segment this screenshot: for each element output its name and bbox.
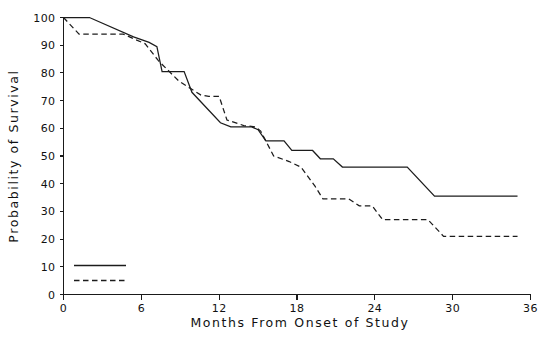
x-tick-label: 6	[138, 302, 145, 315]
y-tick-label: 60	[41, 122, 56, 135]
y-axis-title: Probability of Survival	[6, 69, 21, 242]
y-tick-label: 0	[48, 289, 55, 302]
survival-curve-series-2	[64, 18, 518, 237]
y-tick-label: 40	[41, 178, 56, 191]
y-tick-label: 80	[41, 67, 56, 80]
x-tick-label: 36	[523, 302, 538, 315]
y-tick-label: 90	[41, 39, 56, 52]
y-tick-label: 50	[41, 150, 56, 163]
x-tick-label: 12	[212, 302, 227, 315]
x-tick-label: 0	[60, 302, 67, 315]
x-axis-title: Months From Onset of Study	[190, 315, 409, 330]
x-tick-label: 24	[367, 302, 382, 315]
survival-chart-figure: Probability of Survival Months From Onse…	[0, 0, 551, 339]
y-tick-group: 0102030405060708090100	[33, 12, 63, 302]
y-tick-label: 10	[41, 261, 56, 274]
x-tick-label: 30	[445, 302, 460, 315]
x-tick-label: 18	[290, 302, 305, 315]
y-tick-label: 30	[41, 205, 56, 218]
survival-curve-series-1	[64, 18, 518, 197]
y-tick-label: 100	[33, 12, 55, 25]
y-tick-label: 20	[41, 233, 56, 246]
y-tick-label: 70	[41, 95, 56, 108]
plot-canvas: Probability of Survival Months From Onse…	[0, 0, 551, 339]
x-tick-group: 061218243036	[60, 295, 538, 315]
